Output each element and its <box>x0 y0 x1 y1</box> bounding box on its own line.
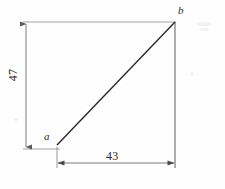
vertex-label-b: b <box>178 5 184 16</box>
dimension-label-vertical: 47 <box>7 69 19 82</box>
dimension-label-horizontal: 43 <box>106 150 119 162</box>
vertex-label-a: a <box>44 131 50 142</box>
figure-canvas: a b 47 43 <box>0 0 225 189</box>
triangle-hypotenuse <box>57 22 175 145</box>
